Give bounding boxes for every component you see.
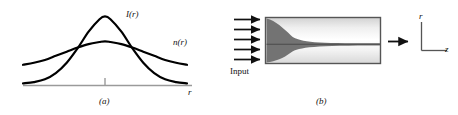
input-arrow-group — [234, 20, 260, 60]
curve-i-of-r — [23, 16, 187, 83]
panel-caption-b: (b) — [316, 97, 327, 106]
input-label: Input — [230, 67, 249, 76]
coordinate-axes — [422, 22, 448, 51]
panel-a-plot — [0, 0, 229, 115]
axis-label-z-panel-b: z — [445, 45, 449, 54]
figure-container: I(r) n(r) r (a) — [0, 0, 458, 115]
axis-label-r-panel-b: r — [419, 12, 423, 21]
panel-caption-a: (a) — [99, 97, 110, 106]
curve-n-of-r — [23, 41, 187, 64]
curve-label-index: n(r) — [173, 38, 187, 47]
curve-label-intensity: I(r) — [126, 10, 139, 19]
panel-b-diagram — [229, 0, 458, 115]
axis-label-r-panel-a: r — [188, 88, 192, 97]
